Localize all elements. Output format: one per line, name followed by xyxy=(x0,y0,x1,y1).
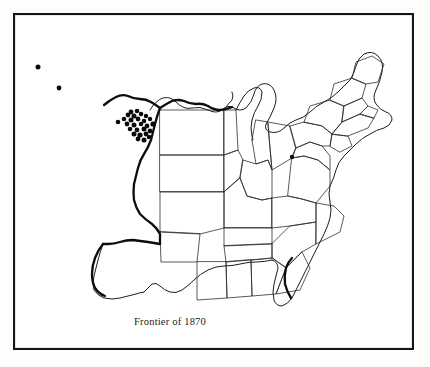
site-dot-marker xyxy=(126,113,131,118)
site-dot-marker xyxy=(129,118,134,123)
site-dot-marker xyxy=(148,129,153,134)
site-dot-marker xyxy=(36,65,41,70)
site-dot-marker xyxy=(136,117,141,122)
site-dot-marker xyxy=(144,114,148,118)
site-dot-marker xyxy=(135,128,140,133)
site-dot-marker xyxy=(122,117,127,122)
site-dot-marker xyxy=(150,121,155,126)
site-dot-marker xyxy=(116,120,121,125)
site-dot-marker xyxy=(139,112,144,117)
site-dot-marker xyxy=(148,117,152,121)
map-canvas xyxy=(0,0,430,367)
site-dot-marker xyxy=(136,137,141,142)
figure-root: Frontier of 1870 xyxy=(0,0,430,367)
site-dot-marker xyxy=(142,138,147,143)
site-dot-marker xyxy=(132,114,137,119)
site-dot-marker xyxy=(57,86,62,91)
site-dot-marker xyxy=(290,155,294,159)
site-dot-marker xyxy=(147,135,152,140)
site-dot-marker xyxy=(142,127,147,132)
site-dot-marker xyxy=(125,122,130,127)
site-dot-marker xyxy=(132,132,137,137)
site-dot-marker xyxy=(139,122,144,127)
site-dot-marker xyxy=(128,127,133,132)
site-dot-marker xyxy=(135,109,140,114)
caption-frontier-of-1870: Frontier of 1870 xyxy=(134,316,206,327)
site-dot-marker xyxy=(132,123,137,128)
